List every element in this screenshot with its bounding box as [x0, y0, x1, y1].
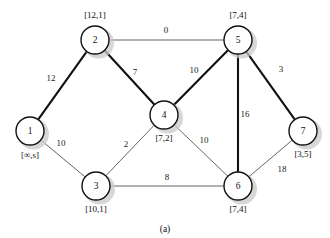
node-id-3: 3: [94, 181, 99, 191]
node-id-1: 1: [28, 126, 33, 136]
node-id-6: 6: [236, 181, 241, 191]
figure-caption: (a): [0, 224, 330, 234]
edge-weight-1-2: 12: [47, 73, 56, 83]
node-label-6: [7,4]: [229, 204, 246, 214]
node-label-4: [7,2]: [155, 133, 172, 143]
node-label-7: [3,5]: [294, 149, 311, 159]
node-label-2: [12,1]: [84, 10, 106, 20]
node-label-3: [10,1]: [85, 204, 107, 214]
edge-weight-3-4: 2: [124, 139, 129, 149]
edge-weight-6-7: 18: [278, 164, 288, 174]
edge-weight-2-5: 0: [164, 25, 169, 35]
edge-2-4: [104, 50, 154, 104]
edge-4-6: [174, 125, 228, 177]
figure-container: 1234567 12100728101016318 [∞,s][12,1][10…: [0, 0, 330, 238]
edge-weight-5-7: 3: [279, 64, 284, 74]
node-id-4: 4: [162, 110, 167, 120]
edge-1-2: [38, 51, 87, 119]
node-id-5: 5: [236, 35, 241, 45]
node-label-1: [∞,s]: [21, 150, 39, 160]
node-label-5: [7,4]: [229, 10, 246, 20]
edge-weight-1-3: 10: [57, 138, 67, 148]
edge-weight-2-4: 7: [133, 67, 138, 77]
edge-weight-4-5: 10: [190, 65, 200, 75]
edge-weight-3-6: 8: [165, 172, 170, 182]
edge-weight-5-6: 16: [241, 109, 251, 119]
node-id-2: 2: [93, 35, 98, 45]
node-id-7: 7: [301, 126, 306, 136]
edge-weight-4-6: 10: [200, 135, 210, 145]
edge-3-4: [106, 125, 155, 176]
graph-canvas: 1234567 12100728101016318 [∞,s][12,1][10…: [0, 0, 330, 238]
edge-5-7: [246, 51, 295, 119]
edge-4-5: [174, 50, 228, 105]
